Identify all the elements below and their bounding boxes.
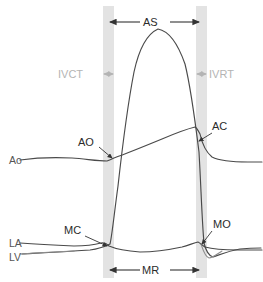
cardiac-cycle-diagram: AS MR IVCT IVRT AO AC MC MO Ao LA LV <box>0 0 263 282</box>
ao-axis-label: Ao <box>9 154 22 166</box>
lv-axis-label: LV <box>9 251 21 263</box>
mr-label: MR <box>142 264 159 276</box>
aortic-pressure-curve <box>20 127 262 162</box>
la-axis-label: LA <box>9 237 22 249</box>
diagram-canvas: AS MR IVCT IVRT AO AC MC MO Ao LA LV <box>0 0 263 282</box>
ao-event-label: AO <box>78 136 94 148</box>
ivct-label: IVCT <box>58 68 83 80</box>
ivrt-label: IVRT <box>209 68 234 80</box>
ivct-band <box>103 6 114 278</box>
la-pressure-curve <box>20 242 262 252</box>
mc-event-label: MC <box>64 224 81 236</box>
ac-event-label: AC <box>212 120 227 132</box>
as-label: AS <box>143 16 158 28</box>
lv-baseline-left-tail <box>20 251 74 254</box>
mo-event-label: MO <box>213 218 231 230</box>
